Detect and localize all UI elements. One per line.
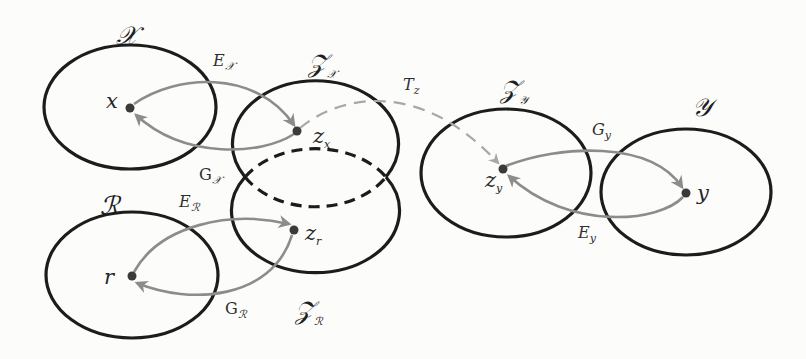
- label-encoder-y: Ey: [577, 223, 597, 245]
- mapping-labels: E𝒳 G𝒳 Eℛ Gℛ Tz Gy Ey: [178, 51, 612, 321]
- label-space-zr: 𝒵ℛ: [294, 296, 324, 328]
- overlap-dashed-boundary-upper: [245, 149, 386, 177]
- label-encoder-x: E𝒳: [212, 51, 238, 73]
- label-point-r: r: [104, 265, 116, 289]
- label-generator-r: Gℛ: [225, 299, 248, 321]
- point-zy: [499, 165, 508, 174]
- label-encoder-r: Eℛ: [178, 192, 201, 214]
- point-y: [682, 189, 691, 198]
- point-labels: x zx r zr zy y: [104, 89, 710, 289]
- label-point-y: y: [696, 181, 710, 205]
- overlap-dashed-boundary-lower: [245, 177, 386, 207]
- point-zr: [290, 226, 299, 235]
- label-generator-x: G𝒳: [199, 165, 225, 187]
- point-r: [128, 272, 137, 281]
- encoder-y-arrow: [509, 176, 683, 217]
- latent-mapping-diagram: 𝒳 𝒵𝒳 ℛ 𝒵ℛ 𝒵𝒴 𝒴 x zx r zr: [0, 0, 806, 359]
- space-zy-ellipse: [421, 109, 591, 237]
- label-space-zy: 𝒵𝒴: [499, 75, 531, 107]
- point-x: [126, 104, 135, 113]
- label-space-zx: 𝒵𝒳: [307, 49, 340, 81]
- generator-y-arrow: [506, 151, 682, 187]
- encoder-r-arrow: [134, 219, 289, 272]
- label-point-x: x: [106, 89, 118, 113]
- point-zx: [293, 127, 302, 136]
- label-point-zx: zx: [312, 124, 331, 151]
- label-space-y: 𝒴: [692, 93, 718, 122]
- label-space-r: ℛ: [100, 191, 122, 220]
- space-labels: 𝒳 𝒵𝒳 ℛ 𝒵ℛ 𝒵𝒴 𝒴: [100, 21, 718, 328]
- label-latent-transform: Tz: [403, 75, 420, 97]
- label-generator-y: Gy: [592, 120, 612, 142]
- label-point-zr: zr: [304, 221, 322, 248]
